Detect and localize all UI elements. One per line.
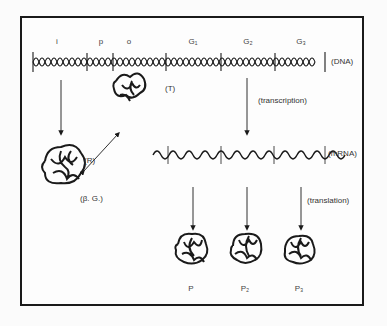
mrna-label: (mRNA) bbox=[328, 149, 357, 158]
protein-label-2: P₂ bbox=[241, 284, 249, 293]
operator-complex-label: (T) bbox=[165, 84, 175, 93]
repressor-label: (R) bbox=[84, 156, 95, 165]
mrna-strand bbox=[153, 146, 345, 164]
diagram-drawing bbox=[0, 0, 387, 326]
beta-g-label: (β. G.) bbox=[80, 194, 103, 203]
double-arrow-repressor-operator bbox=[83, 134, 118, 172]
gene-label-p: p bbox=[99, 37, 103, 46]
protein-blob-3 bbox=[285, 236, 315, 264]
translation-label: (translation) bbox=[307, 196, 349, 205]
operator-complex-blob bbox=[113, 73, 145, 101]
dna-helix bbox=[33, 52, 325, 72]
protein-blob-1 bbox=[175, 234, 207, 264]
transcription-label: (transcription) bbox=[258, 96, 307, 105]
protein-label-3: P₃ bbox=[295, 284, 304, 293]
gene-label-o: o bbox=[127, 37, 131, 46]
protein-label-1: P bbox=[188, 284, 193, 293]
dna-label: (DNA) bbox=[331, 57, 353, 66]
gene-label-g2: G₂ bbox=[243, 37, 252, 46]
repressor-blob bbox=[42, 145, 85, 183]
protein-blob-2 bbox=[231, 234, 262, 263]
gene-label-g3: G₃ bbox=[296, 37, 305, 46]
gene-label-g1: G₁ bbox=[189, 37, 198, 46]
gene-label-i: i bbox=[56, 37, 58, 46]
